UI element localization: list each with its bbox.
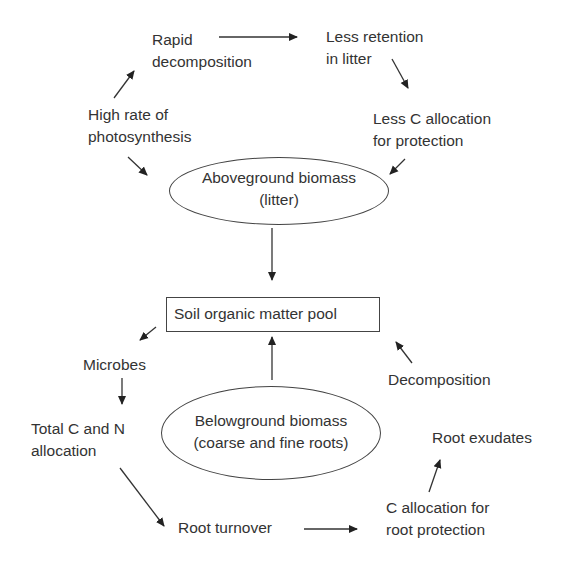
node-text: C allocation for <box>386 497 489 519</box>
node-less-retention: Less retention in litter <box>326 26 423 70</box>
node-less-c-allocation: Less C allocation for protection <box>373 108 491 152</box>
node-text: Less retention <box>326 26 423 48</box>
node-aboveground-biomass-label: Aboveground biomass (litter) <box>169 167 389 211</box>
node-text: root protection <box>386 519 489 541</box>
node-belowground-biomass-label: Belowground biomass (coarse and fine roo… <box>161 410 381 454</box>
node-total-cn-allocation: Total C and N allocation <box>31 418 125 462</box>
arrow-layer <box>0 0 569 566</box>
arrow-totalcn-to-rootturnover <box>120 468 164 526</box>
node-text: Less C allocation <box>373 108 491 130</box>
node-text: in litter <box>326 48 423 70</box>
arrow-photo-to-rapid <box>114 71 134 98</box>
node-text: for protection <box>373 130 491 152</box>
node-text: decomposition <box>152 51 252 73</box>
node-text: Total C and N <box>31 418 125 440</box>
node-c-allocation-root-protection: C allocation for root protection <box>386 497 489 541</box>
node-text: allocation <box>31 440 125 462</box>
node-text: Aboveground biomass <box>169 167 389 189</box>
arrow-photo-to-aboveground <box>128 157 147 175</box>
node-text: Rapid <box>152 29 252 51</box>
node-text: (coarse and fine roots) <box>161 432 381 454</box>
arrow-lessc-to-aboveground <box>390 159 405 174</box>
node-rapid-decomposition: Rapid decomposition <box>152 29 252 73</box>
node-text: (litter) <box>169 189 389 211</box>
node-decomposition: Decomposition <box>388 369 491 391</box>
arrow-decomp-to-soil <box>396 342 412 363</box>
arrow-callocroot-to-exudates <box>429 460 440 492</box>
node-text: Belowground biomass <box>161 410 381 432</box>
node-root-turnover: Root turnover <box>178 517 272 539</box>
node-root-exudates: Root exudates <box>432 427 532 449</box>
node-high-photosynthesis: High rate of photosynthesis <box>88 104 191 148</box>
node-microbes: Microbes <box>83 354 146 376</box>
arrow-soil-to-microbes <box>140 327 156 340</box>
node-text: photosynthesis <box>88 126 191 148</box>
node-soil-pool-label: Soil organic matter pool <box>174 303 337 325</box>
node-text: High rate of <box>88 104 191 126</box>
